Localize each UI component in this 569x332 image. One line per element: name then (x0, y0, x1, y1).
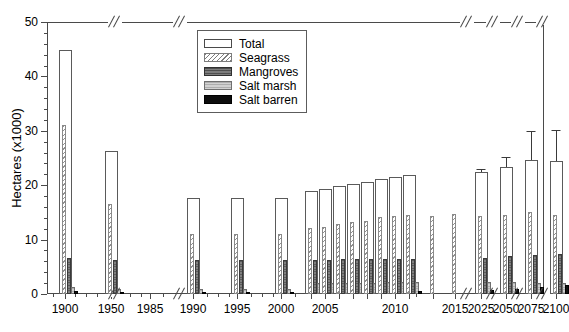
x-tick-minor (229, 294, 230, 297)
x-tick-minor (119, 294, 120, 297)
x-tick (111, 294, 112, 299)
y-tick-label: 50 (25, 16, 38, 28)
x-tick (556, 294, 557, 299)
y-tick-minor (44, 229, 47, 230)
bar-seagrass (350, 222, 355, 294)
y-axis-title: Hectares (x1000) (9, 108, 24, 208)
error-bar-cap (552, 130, 561, 131)
y-tick-minor (44, 261, 47, 262)
x-tick-minor (471, 294, 472, 297)
bar-salt-barren (74, 291, 78, 294)
x-tick-label: 2005 (312, 303, 339, 315)
y-tick-minor (44, 283, 47, 284)
bar-seagrass (364, 221, 369, 294)
legend-swatch-mangroves (204, 67, 232, 76)
x-tick-minor (273, 294, 274, 297)
y-tick-minor (44, 44, 47, 45)
x-tick (281, 294, 282, 299)
legend-swatch-salt-barren (204, 95, 232, 104)
y-tick-minor (44, 66, 47, 67)
legend-label: Salt barren (239, 94, 298, 106)
y-tick-minor (44, 55, 47, 56)
bar-salt-barren (246, 292, 250, 294)
x-tick (237, 294, 238, 299)
x-tick (150, 294, 151, 299)
x-tick-minor (493, 294, 494, 297)
error-bar (556, 130, 557, 160)
x-tick-minor (185, 294, 186, 297)
x-tick-label: 1995 (224, 303, 251, 315)
chart-legend: TotalSeagrassMangrovesSalt marshSalt bar… (197, 30, 307, 113)
x-tick (455, 294, 456, 299)
x-tick-minor (86, 294, 87, 297)
error-bar (506, 157, 507, 166)
x-tick-minor (163, 294, 164, 297)
legend-swatch-total (204, 39, 232, 48)
bar-seagrass (478, 216, 483, 294)
x-tick-label: 1985 (137, 303, 164, 315)
y-tick-minor (44, 153, 47, 154)
x-tick-minor (97, 294, 98, 297)
legend-label: Total (239, 38, 264, 50)
x-tick-minor (53, 294, 54, 297)
bar-seagrass (308, 228, 313, 294)
top-axis-line (47, 22, 544, 23)
x-tick-label: 2075 (518, 303, 545, 315)
bar-salt-barren (515, 289, 519, 294)
x-tick-label: 2015 (442, 303, 469, 315)
x-tick (409, 294, 410, 299)
bar-seagrass (392, 216, 397, 294)
y-tick-major (41, 294, 47, 295)
y-tick-minor (44, 142, 47, 143)
bar-salt-barren (202, 292, 206, 294)
x-tick-label: 2050 (493, 303, 520, 315)
legend-label: Seagrass (239, 52, 290, 64)
x-tick (395, 294, 396, 299)
y-axis-line (47, 22, 48, 294)
bar-seagrass (62, 125, 67, 294)
bar-seagrass (234, 234, 239, 294)
x-tick-label: 2100 (543, 303, 569, 315)
x-tick (311, 294, 312, 299)
y-tick-minor (44, 98, 47, 99)
x-tick-minor (251, 294, 252, 297)
x-tick (506, 294, 507, 299)
plot-area: 01020304050 1900195019851990199520002005… (47, 22, 544, 294)
x-tick (531, 294, 532, 299)
x-tick-minor (416, 294, 417, 297)
bar-seagrass (378, 217, 383, 294)
y-tick-minor (44, 272, 47, 273)
x-tick (353, 294, 354, 299)
x-tick-minor (141, 294, 142, 297)
x-tick (65, 294, 66, 299)
legend-item: Mangroves (204, 65, 298, 78)
y-tick-major (41, 185, 47, 186)
x-tick-minor (207, 294, 208, 297)
legend-swatch-seagrass (204, 53, 232, 62)
y-axis-title-wrap: Hectares (x1000) (14, 22, 15, 294)
y-tick-label: 30 (25, 125, 38, 137)
bar-salt-barren (490, 290, 494, 294)
y-tick-minor (44, 109, 47, 110)
bar-seagrass (503, 215, 508, 294)
x-tick-label: 2000 (268, 303, 295, 315)
error-bar (531, 131, 532, 160)
bar-seagrass (278, 234, 283, 294)
x-tick-label: 1900 (52, 303, 79, 315)
bar-seagrass (553, 215, 558, 294)
bar-seagrass (336, 224, 341, 294)
legend-item: Salt marsh (204, 79, 298, 92)
x-tick-minor (174, 294, 175, 297)
bar-salt-barren (540, 287, 544, 294)
bar-seagrass (108, 204, 113, 294)
y-tick-major (41, 131, 47, 132)
error-bar-cap (477, 169, 486, 170)
y-tick-minor (44, 163, 47, 164)
y-tick-minor (44, 207, 47, 208)
bar-seagrass (190, 234, 195, 294)
x-tick-label: 1990 (180, 303, 207, 315)
y-tick-minor (44, 218, 47, 219)
x-tick-minor (295, 294, 296, 297)
y-tick-minor (44, 33, 47, 34)
